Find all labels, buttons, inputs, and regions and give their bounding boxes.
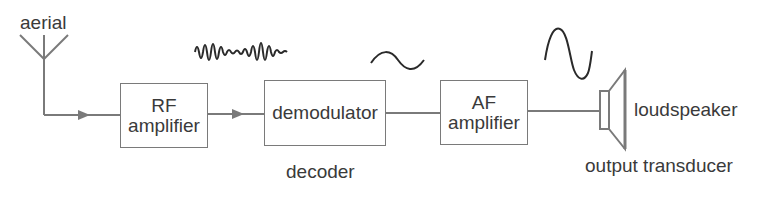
demodulator-block: demodulator xyxy=(264,80,386,146)
af-amplifier-line1: AF xyxy=(472,93,496,113)
af-amplifier-block: AF amplifier xyxy=(440,80,528,145)
rf-amplifier-block: RF amplifier xyxy=(120,83,208,148)
modulated-wave-icon xyxy=(195,43,287,60)
demodulator-label: demodulator xyxy=(272,103,378,123)
loudspeaker-icon xyxy=(600,70,625,149)
output-transducer-label: output transducer xyxy=(585,156,733,175)
af-amplifier-line2: amplifier xyxy=(448,113,520,133)
rf-amplifier-line1: RF xyxy=(151,96,176,116)
arrow-icon xyxy=(232,109,244,119)
rf-amplifier-line2: amplifier xyxy=(128,116,200,136)
arrow-icon xyxy=(78,110,90,120)
aerial-label: aerial xyxy=(20,13,66,32)
loudspeaker-label: loudspeaker xyxy=(634,100,738,119)
audio-wave-small-icon xyxy=(371,52,424,69)
aerial-icon xyxy=(20,35,120,115)
decoder-label: decoder xyxy=(286,162,355,181)
audio-wave-large-icon xyxy=(545,29,592,79)
